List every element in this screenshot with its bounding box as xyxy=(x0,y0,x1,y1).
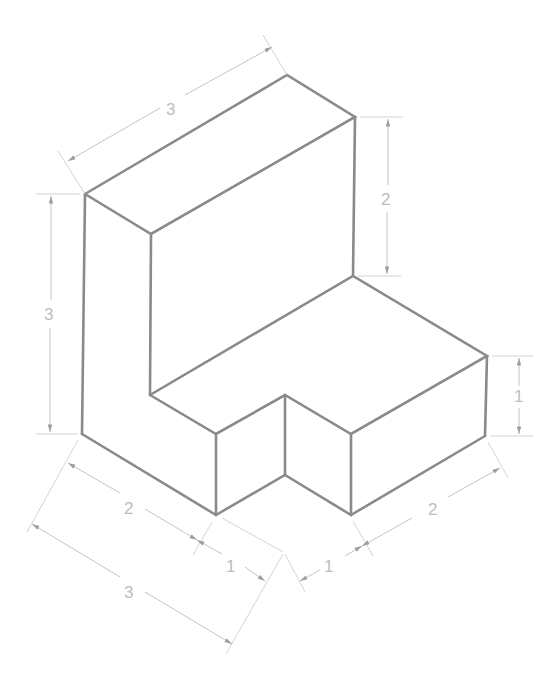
isometric-drawing: 3 3 2 1 2 1 xyxy=(0,0,557,689)
edge-notch-bottom xyxy=(216,475,351,515)
edge-right-vertical xyxy=(485,356,487,436)
edge-bottom-right xyxy=(351,436,485,515)
dimension-left-height: 3 xyxy=(36,194,80,434)
dimension-bottom-left: 2 1 3 xyxy=(27,440,283,654)
dim-label-back-upper-height: 2 xyxy=(381,190,390,209)
dim-label-bottom-notch-right: 1 xyxy=(324,557,333,576)
dimension-top-depth: 3 xyxy=(58,35,287,194)
object-edges xyxy=(82,75,487,515)
dim-label-bottom-left-inner: 2 xyxy=(124,499,133,518)
edge-back-vertical xyxy=(353,117,355,276)
dim-label-right-step-height: 1 xyxy=(514,387,523,406)
dimension-bottom-right: 1 2 xyxy=(285,442,508,592)
dim-label-bottom-notch-left: 1 xyxy=(226,557,235,576)
dim-label-bottom-left-outer: 3 xyxy=(124,583,133,602)
edge-step-top xyxy=(150,276,487,434)
edge-top-face xyxy=(85,75,355,234)
edge-bottom-left xyxy=(82,434,216,515)
edge-upright-inner-vertical xyxy=(150,234,151,395)
dimension-back-upper-height: 2 xyxy=(358,117,403,276)
edge-left-vertical xyxy=(82,194,85,434)
dim-label-bottom-right: 2 xyxy=(428,500,437,519)
dimension-right-step-height: 1 xyxy=(490,356,533,436)
dim-label-top-depth: 3 xyxy=(166,100,175,119)
dim-label-left-height: 3 xyxy=(44,305,53,324)
